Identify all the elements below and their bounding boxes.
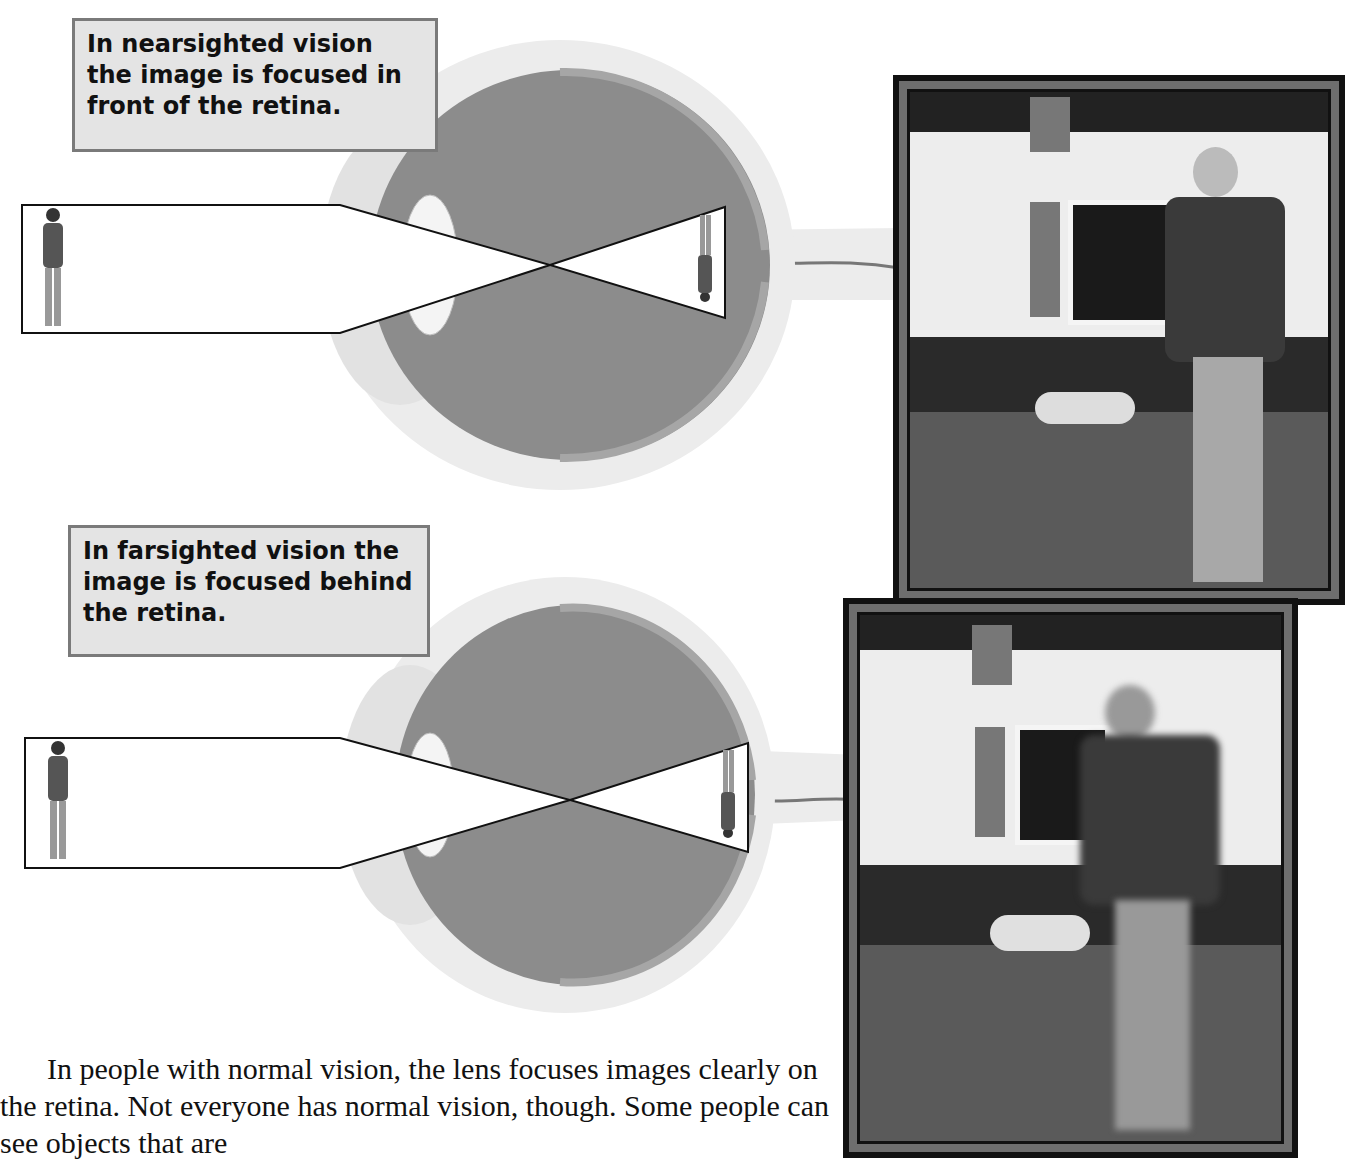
nearsighted-callout: In nearsighted vision the image is focus… [72,18,438,152]
farsighted-photo [843,598,1298,1158]
farsighted-callout: In farsighted vision the image is focuse… [68,525,430,657]
body-paragraph: In people with normal vision, the lens f… [0,1050,840,1161]
nearsighted-callout-text: In nearsighted vision the image is focus… [87,30,402,120]
farsighted-callout-text: In farsighted vision the image is focuse… [83,537,412,627]
body-paragraph-text: In people with normal vision, the lens f… [0,1050,840,1161]
nearsighted-photo [893,75,1345,605]
